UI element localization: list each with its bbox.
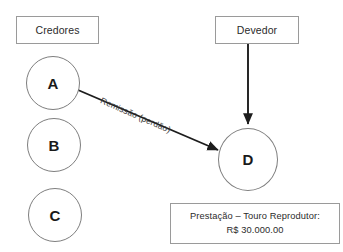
debtor-group-label: Devedor [237,24,277,36]
creditors-group-label: Credores [36,24,80,36]
prestacao-note-box: Prestação – Touro Reprodutor: R$ 30.000.… [170,203,340,244]
remissao-edge-label: Remissão (perdão) [99,95,172,134]
debtor-node-d: D [218,128,278,191]
creditor-node-b-label: B [49,137,60,154]
creditor-node-c-label: C [50,207,61,224]
prestacao-note-line-2: R$ 30.000.00 [226,224,283,237]
creditor-node-a-label: A [48,75,59,92]
debtor-group-box: Devedor [215,16,299,44]
creditor-node-a: A [26,56,80,110]
diagram-canvas: Credores Devedor A B C D Remissão (perdã… [0,0,343,252]
debtor-node-d-label: D [243,151,254,168]
prestacao-note-line-1: Prestação – Touro Reprodutor: [190,210,320,223]
creditor-node-b: B [27,118,81,172]
creditor-node-c: C [28,188,82,242]
creditors-group-box: Credores [16,16,99,44]
